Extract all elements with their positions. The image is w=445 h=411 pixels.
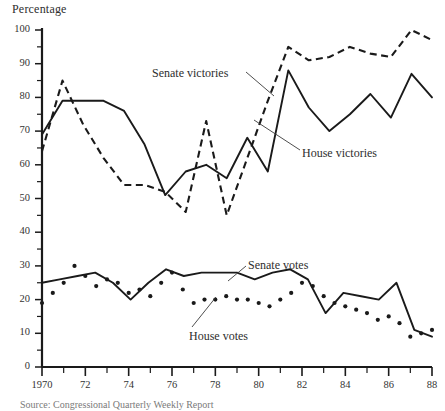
label-house-victories: House victories bbox=[302, 146, 377, 161]
x-tick-1972: 72 bbox=[63, 379, 107, 390]
source-note: Source: Congressional Quarterly Weekly R… bbox=[20, 399, 440, 411]
y-tick-60: 60 bbox=[6, 158, 30, 169]
series-senate-victories bbox=[42, 30, 432, 215]
x-tick-1974: 74 bbox=[107, 379, 151, 390]
x-tick-1976: 76 bbox=[150, 379, 194, 390]
y-tick-70: 70 bbox=[6, 124, 30, 135]
label-senate-victories: Senate victories bbox=[152, 66, 228, 81]
annotation-leader-lines bbox=[192, 72, 300, 327]
x-tick-1982: 82 bbox=[280, 379, 324, 390]
y-tick-50: 50 bbox=[6, 192, 30, 203]
x-tick-1978: 78 bbox=[193, 379, 237, 390]
y-axis-title: Percentage bbox=[12, 2, 67, 17]
y-tick-0: 0 bbox=[6, 360, 30, 371]
axes-group bbox=[35, 28, 432, 376]
y-tick-40: 40 bbox=[6, 225, 30, 236]
y-tick-90: 90 bbox=[6, 57, 30, 68]
label-senate-votes: Senate votes bbox=[248, 258, 308, 273]
label-house-votes: House votes bbox=[189, 329, 248, 344]
y-tick-80: 80 bbox=[6, 90, 30, 101]
series-senate-votes bbox=[42, 269, 432, 336]
y-tick-30: 30 bbox=[6, 259, 30, 270]
x-tick-1980: 80 bbox=[237, 379, 281, 390]
y-tick-100: 100 bbox=[6, 23, 30, 34]
series-house-victories bbox=[42, 70, 432, 195]
x-tick-1970: 1970 bbox=[20, 379, 64, 390]
leader-line-0 bbox=[246, 72, 274, 96]
x-tick-1988: 88 bbox=[410, 379, 445, 390]
y-tick-10: 10 bbox=[6, 326, 30, 337]
y-tick-20: 20 bbox=[6, 293, 30, 304]
chart-plot-area bbox=[0, 0, 445, 411]
data-series-group bbox=[40, 30, 434, 339]
chart-figure: Percentage 0102030405060708090100 197072… bbox=[0, 0, 445, 411]
x-tick-1986: 86 bbox=[367, 379, 411, 390]
x-tick-1984: 84 bbox=[323, 379, 367, 390]
